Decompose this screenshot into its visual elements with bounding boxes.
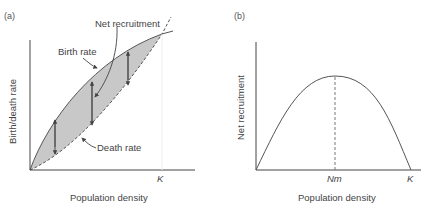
death-rate-leader xyxy=(82,138,96,148)
panel-a-tag: (a) xyxy=(4,12,15,21)
birth-rate-leader xyxy=(83,58,97,68)
net-recruitment-curve xyxy=(256,76,411,170)
x-axis-label: Population density xyxy=(298,193,376,203)
nm-tick-label: Nm xyxy=(327,174,342,184)
birth-rate-label: Birth rate xyxy=(58,47,97,57)
panel-b-plot xyxy=(256,42,421,170)
panel-b-tag: (b) xyxy=(234,12,245,21)
death-rate-label: Death rate xyxy=(97,143,141,153)
y-axis-label: Net recruitment xyxy=(236,75,246,140)
net-recruitment-label: Net recruitment xyxy=(95,19,160,29)
k-tick-label: K xyxy=(157,174,163,184)
k-tick-label: K xyxy=(407,174,413,184)
y-axis-label: Birth/death rate xyxy=(8,79,18,144)
figure-canvas xyxy=(0,0,433,210)
x-axis-label: Population density xyxy=(70,193,148,203)
